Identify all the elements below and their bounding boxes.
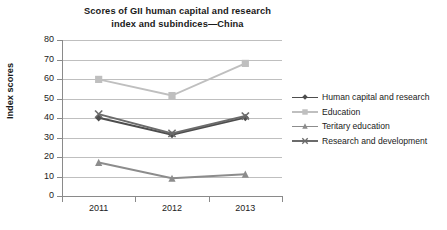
y-axis-line — [62, 40, 63, 197]
x-axis-tick-label: 2011 — [69, 203, 129, 213]
series-human-capital-and-research — [95, 114, 249, 138]
chart-title: Scores of GII human capital and research… — [55, 5, 300, 30]
legend-marker-glyph — [301, 108, 309, 116]
legend-item[interactable]: Research and development — [292, 134, 444, 149]
legend-marker-square-icon — [292, 106, 318, 118]
legend-item-label: Teritary education — [322, 121, 390, 131]
legend-item[interactable]: Teritary education — [292, 119, 444, 134]
legend-item-label: Human capital and research — [322, 92, 429, 102]
legend-marker-triangle-icon — [292, 120, 318, 132]
line-chart: Scores of GII human capital and research… — [0, 0, 447, 230]
data-point-marker — [302, 138, 307, 143]
y-axis-tick-label: 0 — [24, 190, 54, 200]
data-point-marker — [95, 76, 102, 83]
legend-marker-glyph — [301, 122, 309, 130]
legend-marker-glyph — [301, 137, 309, 145]
y-axis-title: Index scores — [5, 63, 15, 119]
y-axis-tick-label: 30 — [24, 132, 54, 142]
data-point-marker — [302, 95, 307, 100]
x-axis-tick — [135, 197, 136, 202]
chart-title-line-1: Scores of GII human capital and research — [55, 5, 300, 18]
plot-area — [62, 40, 282, 196]
y-axis-tick-label: 50 — [24, 93, 54, 103]
y-axis-tick-label: 40 — [24, 112, 54, 122]
x-axis-tick — [282, 197, 283, 202]
legend-marker-diamond-icon — [292, 91, 318, 103]
y-axis-tick-label: 70 — [24, 54, 54, 64]
legend-item[interactable]: Human capital and research — [292, 90, 444, 105]
legend-marker-x-icon — [292, 135, 318, 147]
legend-marker-glyph — [301, 93, 309, 101]
series-layer — [62, 40, 282, 196]
x-axis-line — [62, 196, 283, 197]
legend-item-label: Research and development — [322, 136, 427, 146]
series-line — [99, 63, 246, 95]
legend-item[interactable]: Education — [292, 105, 444, 120]
data-point-marker — [302, 124, 307, 129]
data-point-marker — [168, 92, 175, 99]
x-axis-tick — [209, 197, 210, 202]
series-education — [95, 60, 249, 99]
x-axis-tick-label: 2012 — [142, 203, 202, 213]
x-axis-tick — [62, 197, 63, 202]
y-axis-tick-label: 80 — [24, 34, 54, 44]
legend-item-label: Education — [322, 107, 360, 117]
series-research-and-development — [95, 111, 249, 138]
y-axis-tick-label: 10 — [24, 171, 54, 181]
y-axis-tick-label: 20 — [24, 151, 54, 161]
data-point-marker — [242, 60, 249, 67]
x-axis-tick-label: 2013 — [215, 203, 275, 213]
y-axis-tick-label: 60 — [24, 73, 54, 83]
data-point-marker — [302, 109, 307, 114]
chart-legend: Human capital and researchEducationTerit… — [292, 90, 444, 148]
series-teritary-education — [95, 159, 249, 182]
y-axis-tick-labels: 01020304050607080 — [18, 0, 54, 230]
chart-title-line-2: index and subindices—China — [55, 18, 300, 31]
